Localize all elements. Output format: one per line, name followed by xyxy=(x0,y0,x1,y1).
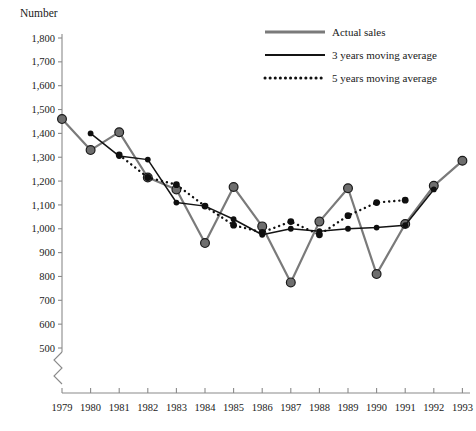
x-tick-label: 1984 xyxy=(195,402,217,413)
data-point-marker xyxy=(145,157,151,163)
data-point-marker xyxy=(344,184,353,193)
data-point-marker xyxy=(173,181,180,188)
data-point-marker xyxy=(174,200,180,206)
x-axis-tick-marks xyxy=(62,388,462,393)
data-point-marker xyxy=(259,229,266,236)
x-tick-label: 1988 xyxy=(309,402,330,413)
x-axis-tick-labels: 1979198019811982198319841985198619871988… xyxy=(52,402,473,413)
x-tick-label: 1982 xyxy=(137,402,158,413)
data-point-marker xyxy=(402,222,408,228)
x-tick-label: 1992 xyxy=(423,402,444,413)
data-point-marker xyxy=(116,151,123,158)
y-tick-label: 600 xyxy=(39,319,55,330)
legend-label: Actual sales xyxy=(332,26,385,38)
legend-item: 5 years moving average xyxy=(265,72,437,84)
y-axis-tick-labels: 1,8001,7001,6001,5001,4001,3001,2001,100… xyxy=(31,33,55,354)
y-tick-label: 1,200 xyxy=(31,176,55,187)
x-tick-label: 1979 xyxy=(52,402,73,413)
x-tick-label: 1980 xyxy=(80,402,101,413)
data-point-marker xyxy=(231,216,237,222)
y-tick-label: 1,800 xyxy=(31,33,55,44)
x-tick-label: 1993 xyxy=(452,402,473,413)
y-tick-label: 1,500 xyxy=(31,104,55,115)
series-line xyxy=(91,133,434,234)
data-point-marker xyxy=(202,203,209,210)
x-tick-label: 1986 xyxy=(252,402,273,413)
x-tick-label: 1985 xyxy=(223,402,244,413)
data-point-marker xyxy=(316,231,323,238)
y-tick-label: 1,400 xyxy=(31,128,55,139)
data-point-marker xyxy=(229,183,238,192)
data-series-layer xyxy=(58,115,467,287)
data-point-marker xyxy=(230,222,237,229)
y-tick-label: 700 xyxy=(39,295,55,306)
legend-label: 3 years moving average xyxy=(332,49,437,61)
data-point-marker xyxy=(374,225,380,231)
data-point-marker xyxy=(431,187,437,193)
x-tick-label: 1987 xyxy=(280,402,301,413)
data-point-marker xyxy=(345,226,351,232)
data-point-marker xyxy=(288,226,294,232)
data-point-marker xyxy=(373,199,380,206)
axis-break-icon xyxy=(54,352,62,384)
x-tick-label: 1981 xyxy=(109,402,130,413)
data-point-marker xyxy=(58,115,67,124)
data-point-marker xyxy=(372,270,381,279)
y-tick-label: 1,300 xyxy=(31,152,55,163)
x-tick-label: 1989 xyxy=(338,402,359,413)
legend-item: Actual sales xyxy=(265,26,385,38)
data-point-marker xyxy=(286,278,295,287)
x-tick-label: 1983 xyxy=(166,402,187,413)
y-tick-label: 1,000 xyxy=(31,223,55,234)
y-axis-tick-marks xyxy=(58,38,62,348)
line-chart: Number 1,8001,7001,6001,5001,4001,3001,2… xyxy=(0,0,476,431)
y-tick-label: 800 xyxy=(39,271,55,282)
x-tick-label: 1991 xyxy=(395,402,416,413)
legend-label: 5 years moving average xyxy=(332,72,437,84)
y-tick-label: 1,100 xyxy=(31,200,55,211)
data-point-marker xyxy=(115,128,124,137)
y-tick-label: 500 xyxy=(39,343,55,354)
data-point-marker xyxy=(315,217,324,226)
data-point-marker xyxy=(201,239,210,248)
chart-legend: Actual sales3 years moving average5 year… xyxy=(265,26,437,84)
data-point-marker xyxy=(144,174,151,181)
data-point-marker xyxy=(88,130,94,136)
data-point-marker xyxy=(345,212,352,219)
y-tick-label: 1,600 xyxy=(31,80,55,91)
data-point-marker xyxy=(402,197,409,204)
data-point-marker xyxy=(287,218,294,225)
y-tick-label: 900 xyxy=(39,247,55,258)
chart-container: Number 1,8001,7001,6001,5001,4001,3001,2… xyxy=(0,0,476,431)
y-tick-label: 1,700 xyxy=(31,56,55,67)
legend-item: 3 years moving average xyxy=(265,49,437,61)
data-point-marker xyxy=(458,156,467,165)
y-axis-title: Number xyxy=(20,7,58,19)
x-tick-label: 1990 xyxy=(366,402,387,413)
data-point-marker xyxy=(86,146,95,155)
